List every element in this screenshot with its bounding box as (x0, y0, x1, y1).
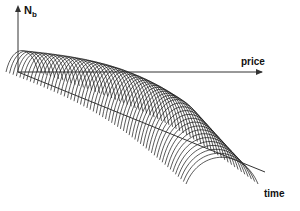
price-axis-arrow-icon (256, 69, 263, 75)
chart-root: Nb price time (0, 0, 300, 211)
time-axis (18, 72, 265, 172)
distribution-curves (6, 51, 258, 184)
z-axis-label: Nb (24, 4, 37, 19)
price-axis-label: price (241, 56, 265, 67)
z-axis-arrow-icon (15, 5, 21, 12)
waterfall-plot (0, 0, 300, 211)
time-axis-label: time (264, 188, 285, 199)
